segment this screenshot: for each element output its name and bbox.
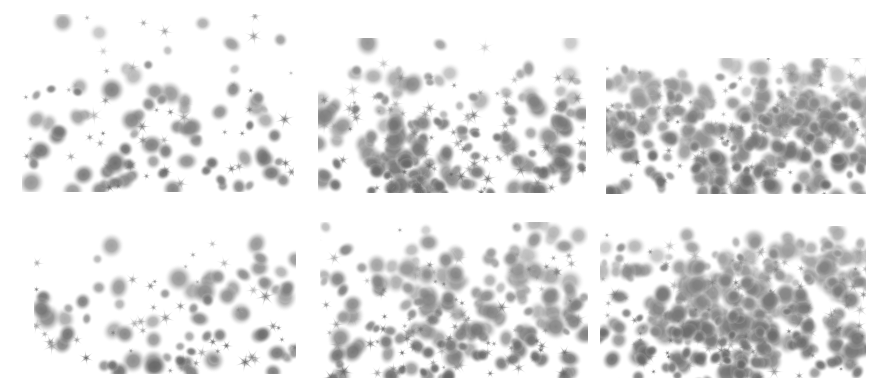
panel-bottom-center xyxy=(320,222,588,378)
panel-top-center xyxy=(318,38,586,193)
panel-canvas-top-left xyxy=(22,14,294,192)
panel-top-left xyxy=(22,14,294,192)
figure-root xyxy=(0,0,889,386)
panel-bottom-left xyxy=(34,226,296,374)
panel-canvas-bottom-right xyxy=(600,226,866,378)
panel-bottom-right xyxy=(600,226,866,378)
panel-top-right xyxy=(606,58,866,194)
panel-canvas-bottom-left xyxy=(34,226,296,374)
panel-canvas-bottom-center xyxy=(320,222,588,378)
panel-canvas-top-center xyxy=(318,38,586,193)
panel-canvas-top-right xyxy=(606,58,866,194)
